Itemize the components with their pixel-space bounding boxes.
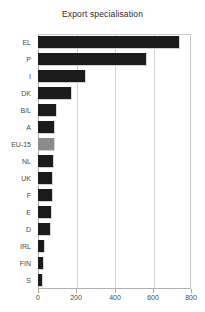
y-axis-tick-label: IRL bbox=[0, 238, 34, 255]
bar-D bbox=[38, 223, 51, 236]
bar-row bbox=[38, 85, 191, 102]
bar-row bbox=[38, 119, 191, 136]
bar-E bbox=[38, 206, 52, 219]
bar-P bbox=[38, 53, 147, 66]
y-axis-tick-label: S bbox=[0, 272, 34, 289]
bars-layer bbox=[38, 34, 191, 289]
bar-DK bbox=[38, 87, 72, 100]
x-axis-tick-label: 200 bbox=[63, 294, 89, 301]
bar-IRL bbox=[38, 240, 45, 253]
bar-row bbox=[38, 136, 191, 153]
bar-row bbox=[38, 255, 191, 272]
bar-row bbox=[38, 272, 191, 289]
x-axis-tick bbox=[153, 289, 154, 293]
y-axis-tick-label: E bbox=[0, 204, 34, 221]
bar-row bbox=[38, 34, 191, 51]
bar-I bbox=[38, 70, 86, 83]
bar-row bbox=[38, 187, 191, 204]
bar-A bbox=[38, 121, 55, 134]
bar-row bbox=[38, 153, 191, 170]
y-axis-tick-label: NL bbox=[0, 153, 34, 170]
bar-row bbox=[38, 204, 191, 221]
bar-S bbox=[38, 274, 43, 287]
bar-row bbox=[38, 170, 191, 187]
y-axis-tick-label: DK bbox=[0, 85, 34, 102]
bar-F bbox=[38, 189, 53, 202]
bar-NL bbox=[38, 155, 54, 168]
export-specialisation-chart: Export specialisation EL P I DK B/L A EU… bbox=[0, 0, 205, 312]
x-axis-tick-label: 0 bbox=[25, 294, 51, 301]
x-axis-tick bbox=[38, 289, 39, 293]
bar-BL bbox=[38, 104, 57, 117]
bar-EU-15 bbox=[38, 138, 55, 151]
y-axis-tick-label: B/L bbox=[0, 102, 34, 119]
y-axis-tick-label: FIN bbox=[0, 255, 34, 272]
x-axis-tick-label: 600 bbox=[140, 294, 166, 301]
x-axis-tick-label: 800 bbox=[178, 294, 204, 301]
bar-row bbox=[38, 238, 191, 255]
bar-EL bbox=[38, 36, 180, 49]
y-axis-labels: EL P I DK B/L A EU-15 NL UK F E D IRL FI… bbox=[0, 34, 34, 289]
bar-row bbox=[38, 102, 191, 119]
bar-row bbox=[38, 51, 191, 68]
x-axis-tick bbox=[115, 289, 116, 293]
chart-title: Export specialisation bbox=[0, 9, 205, 19]
y-axis-tick-label: UK bbox=[0, 170, 34, 187]
bar-row bbox=[38, 68, 191, 85]
y-axis-tick-label: EL bbox=[0, 34, 34, 51]
y-axis-tick-label: P bbox=[0, 51, 34, 68]
y-axis-tick-label: A bbox=[0, 119, 34, 136]
y-axis-tick-label: D bbox=[0, 221, 34, 238]
bar-FIN bbox=[38, 257, 44, 270]
y-axis-tick-label: I bbox=[0, 68, 34, 85]
x-axis-tick bbox=[191, 289, 192, 293]
y-axis-tick-label: F bbox=[0, 187, 34, 204]
x-axis-tick bbox=[76, 289, 77, 293]
bar-row bbox=[38, 221, 191, 238]
y-axis-tick-label: EU-15 bbox=[0, 136, 34, 153]
x-axis-tick-label: 400 bbox=[102, 294, 128, 301]
bar-UK bbox=[38, 172, 53, 185]
